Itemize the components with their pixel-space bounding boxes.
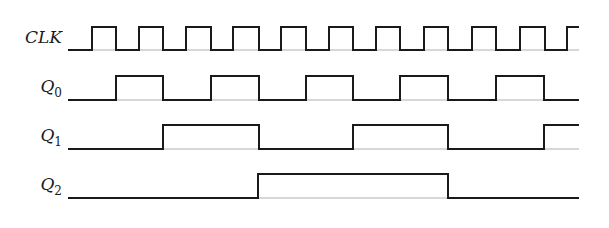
waveform-q1 xyxy=(68,125,579,149)
waveform-clk xyxy=(68,27,579,50)
timing-diagram: CLK Q0 Q1 Q2 xyxy=(0,0,609,228)
waveform-q2 xyxy=(68,174,579,198)
waveform-q0 xyxy=(68,76,579,100)
waveforms xyxy=(0,0,609,228)
